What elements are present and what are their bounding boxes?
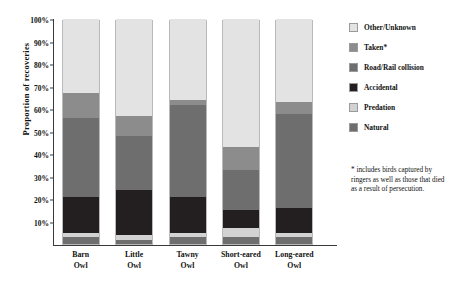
bar-segment-other-unknown [63, 19, 99, 93]
bar-segment-natural [276, 237, 312, 244]
bar-segment-other-unknown [276, 19, 312, 102]
bar-segment-accidental [116, 190, 152, 235]
bar-segment-predation [276, 233, 312, 238]
y-axis-title: Proportion of recoveries [21, 9, 31, 169]
legend-label: Road/Rail collision [364, 63, 424, 72]
bar-segment-other-unknown [170, 19, 206, 100]
bar-long-eared-owl[interactable] [275, 20, 313, 245]
bar-segment-accidental [276, 208, 312, 233]
bar-segment-other-unknown [223, 19, 259, 147]
legend-item[interactable]: Taken* [349, 37, 453, 57]
y-axis-tick-mark [50, 42, 53, 43]
legend-label: Other/Unknown [364, 23, 416, 32]
bar-segment-accidental [170, 197, 206, 233]
bar-segment-taken- [170, 100, 206, 105]
y-axis-tick-mark [50, 132, 53, 133]
y-axis-tick-mark [50, 155, 53, 156]
bar-segment-road-rail-collision [116, 136, 152, 190]
bar-segment-predation [63, 233, 99, 238]
legend-swatch-icon [349, 43, 358, 52]
legend-label: Predation [364, 103, 395, 112]
bar-segment-accidental [63, 197, 99, 233]
legend-item[interactable]: Natural [349, 117, 453, 137]
y-axis-tick-mark [50, 87, 53, 88]
legend-item[interactable]: Road/Rail collision [349, 57, 453, 77]
chart-legend: Other/UnknownTaken*Road/Rail collisionAc… [349, 17, 453, 137]
bar-short-eared-owl[interactable] [222, 20, 260, 245]
bar-segment-road-rail-collision [223, 170, 259, 211]
y-axis-tick-mark [50, 110, 53, 111]
bar-barn-owl[interactable] [62, 20, 100, 245]
legend-item[interactable]: Accidental [349, 77, 453, 97]
bar-segment-road-rail-collision [276, 114, 312, 209]
bar-segment-other-unknown [116, 19, 152, 116]
legend-swatch-icon [349, 83, 358, 92]
y-axis-tick-mark [50, 65, 53, 66]
bar-segment-accidental [223, 210, 259, 228]
bar-segment-natural [63, 237, 99, 244]
bar-segment-natural [170, 237, 206, 244]
legend-label: Accidental [364, 83, 398, 92]
bar-segment-predation [116, 235, 152, 240]
legend-label: Taken* [364, 43, 387, 52]
x-axis-label-line: Long-eared [258, 250, 330, 261]
bar-segment-predation [170, 233, 206, 238]
bar-segment-road-rail-collision [63, 118, 99, 197]
legend-swatch-icon [349, 23, 358, 32]
y-axis-tick-mark [50, 200, 53, 201]
legend-swatch-icon [349, 103, 358, 112]
bar-segment-predation [223, 228, 259, 237]
legend-item[interactable]: Predation [349, 97, 453, 117]
bar-segment-taken- [276, 102, 312, 113]
legend-label: Natural [364, 123, 389, 132]
bar-segment-natural [223, 237, 259, 244]
bar-segment-taken- [116, 116, 152, 136]
bar-segment-road-rail-collision [170, 105, 206, 197]
bar-segment-natural [116, 240, 152, 245]
legend-swatch-icon [349, 123, 358, 132]
footnote-text: * includes birds captured by ringers as … [351, 166, 451, 195]
bar-tawny-owl[interactable] [169, 20, 207, 245]
stacked-bar-chart: Proportion of recoveries 100%90%80%70%60… [0, 0, 453, 285]
x-axis-label-line: Owl [258, 261, 330, 272]
legend-item[interactable]: Other/Unknown [349, 17, 453, 37]
y-axis-tick-mark [50, 20, 53, 21]
x-axis-label: Long-earedOwl [258, 250, 330, 271]
legend-swatch-icon [349, 63, 358, 72]
y-axis-tick-mark [50, 222, 53, 223]
bar-little-owl[interactable] [115, 20, 153, 245]
plot-area: 100%90%80%70%60%50%40%30%20%10% [53, 20, 320, 245]
x-axis-line [53, 245, 337, 246]
bar-segment-taken- [223, 147, 259, 170]
y-axis-tick-mark [50, 177, 53, 178]
bar-segment-taken- [63, 93, 99, 118]
